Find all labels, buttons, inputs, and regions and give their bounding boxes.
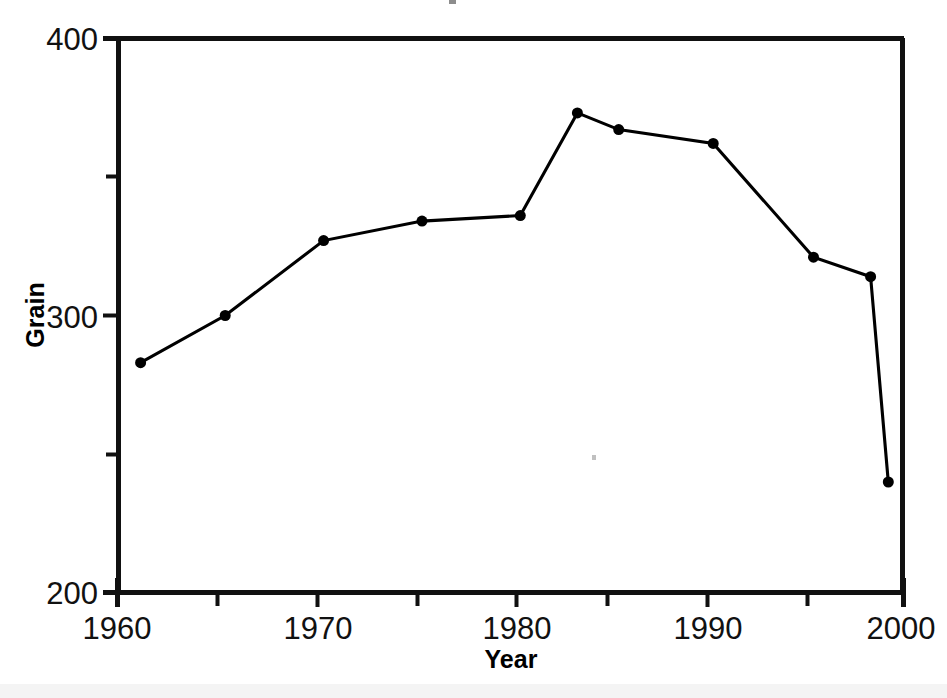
chart-canvas: 400 300 200 1960 1970 1980 1990 2000 Gra…	[0, 0, 947, 698]
x-tick-label-1990: 1990	[674, 611, 743, 646]
y-tick-label-300: 300	[46, 300, 98, 335]
data-point	[883, 477, 894, 488]
scan-noise-bottom	[0, 684, 947, 698]
y-tick-label-200: 200	[46, 576, 98, 611]
x-tick-label-1980: 1980	[483, 611, 552, 646]
y-axis-title: Grain	[21, 282, 49, 347]
line-chart-figure: 400 300 200 1960 1970 1980 1990 2000 Gra…	[0, 0, 947, 698]
data-point	[613, 124, 624, 135]
y-axis-ticks	[103, 39, 118, 593]
data-point	[135, 357, 146, 368]
series-grain-line	[141, 113, 889, 482]
data-point	[515, 210, 526, 221]
data-point	[220, 310, 231, 321]
data-point	[708, 138, 719, 149]
x-tick-label-2000: 2000	[867, 611, 936, 646]
scan-speck-plot	[592, 455, 596, 460]
data-point	[417, 216, 428, 227]
x-tick-label-1970: 1970	[284, 611, 353, 646]
data-point	[865, 271, 876, 282]
series-grain	[135, 107, 894, 487]
x-axis-title: Year	[485, 645, 538, 673]
data-point	[808, 252, 819, 263]
x-tick-label-1960: 1960	[83, 611, 152, 646]
scan-speck-top	[449, 0, 456, 4]
data-point	[572, 107, 583, 118]
y-tick-label-400: 400	[46, 22, 98, 57]
data-point	[318, 235, 329, 246]
plot-frame	[117, 38, 904, 593]
